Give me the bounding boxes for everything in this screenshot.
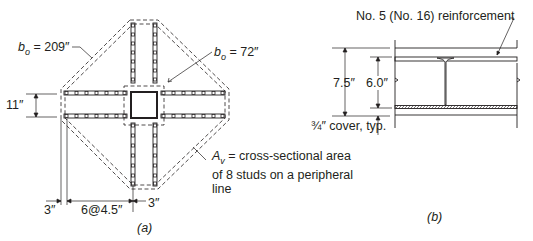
label-reinforcement: No. 5 (No. 16) reinforcement [356,9,514,23]
av-line-1: Av = cross-sectional area [212,149,353,168]
label-dim-left: 3″ [44,203,55,217]
bo-outer-value: = 209″ [30,40,70,54]
label-dim-studs: 6@4.5″ [81,203,122,217]
label-slab-depth: 7.5″ [333,76,355,90]
caption-b: (b) [427,210,442,224]
dimension-lines-b [332,18,514,135]
caption-a: (a) [137,221,152,235]
label-bo-outer: bo = 209″ [18,40,70,59]
label-av-definition: Av = cross-sectional area of 8 studs on … [212,149,353,196]
bo-inner-value: = 72″ [226,45,259,59]
av-text-1: = cross-sectional area [225,149,351,163]
av-line-2: of 8 studs on a peripheral [212,168,353,182]
bo-symbol: b [214,45,221,59]
bo-symbol: b [18,40,25,54]
column [131,92,157,118]
label-stud-height: 6.0″ [366,76,388,90]
slab-section [395,40,520,128]
av-line-3: line [212,182,353,196]
leader-lines-a [26,47,212,212]
label-cover: ¾″ cover, typ. [311,119,386,133]
label-dim-right: 3″ [148,196,159,210]
diagram-canvas [0,0,533,241]
label-rail-spacing: 11″ [6,98,23,112]
label-bo-inner: bo = 72″ [214,45,259,64]
